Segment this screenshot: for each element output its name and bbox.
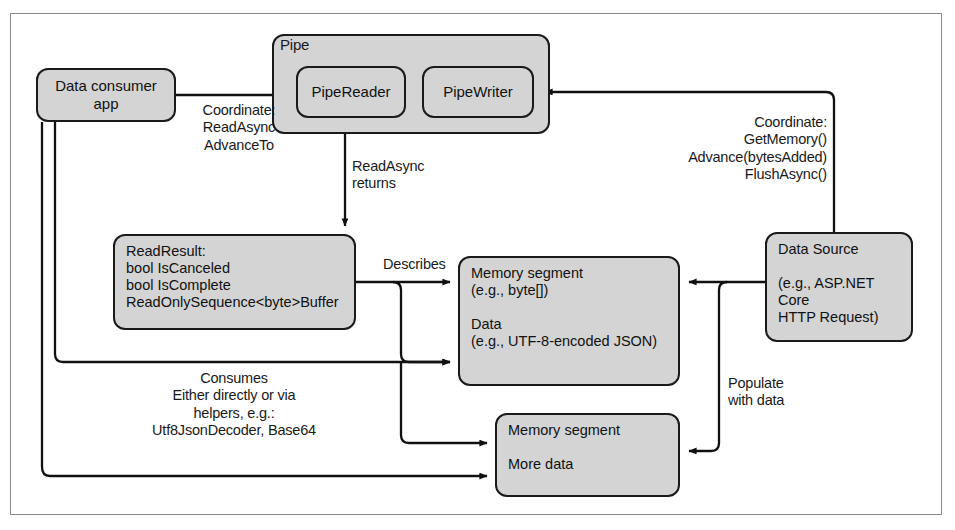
pipe-writer-node: PipeWriter <box>422 66 534 118</box>
label-describes: Describes <box>383 256 463 273</box>
label-consumer-to-reader: Coordinate: ReadAsync AdvanceTo <box>178 102 300 154</box>
label-populate-with-data: Populate with data <box>728 375 838 410</box>
pipe-container-label: Pipe <box>280 36 309 54</box>
data-source-node: Data Source (e.g., ASP.NET Core HTTP Req… <box>765 232 913 342</box>
label-readasync-returns: ReadAsync returns <box>352 158 462 193</box>
memory-segment-2-node: Memory segment More data <box>495 413 680 497</box>
label-source-to-writer: Coordinate: GetMemory() Advance(bytesAdd… <box>615 114 827 184</box>
label-consumes: Consumes Either directly or via helpers,… <box>100 370 368 440</box>
pipe-reader-node: PipeReader <box>296 66 406 118</box>
read-result-node: ReadResult: bool IsCanceled bool IsCompl… <box>113 234 356 330</box>
data-consumer-app-node: Data consumer app <box>36 68 176 122</box>
memory-segment-1-node: Memory segment (e.g., byte[]) Data (e.g.… <box>458 256 680 386</box>
diagram-canvas: Pipe PipeReader PipeWriter Data consumer… <box>0 0 955 530</box>
